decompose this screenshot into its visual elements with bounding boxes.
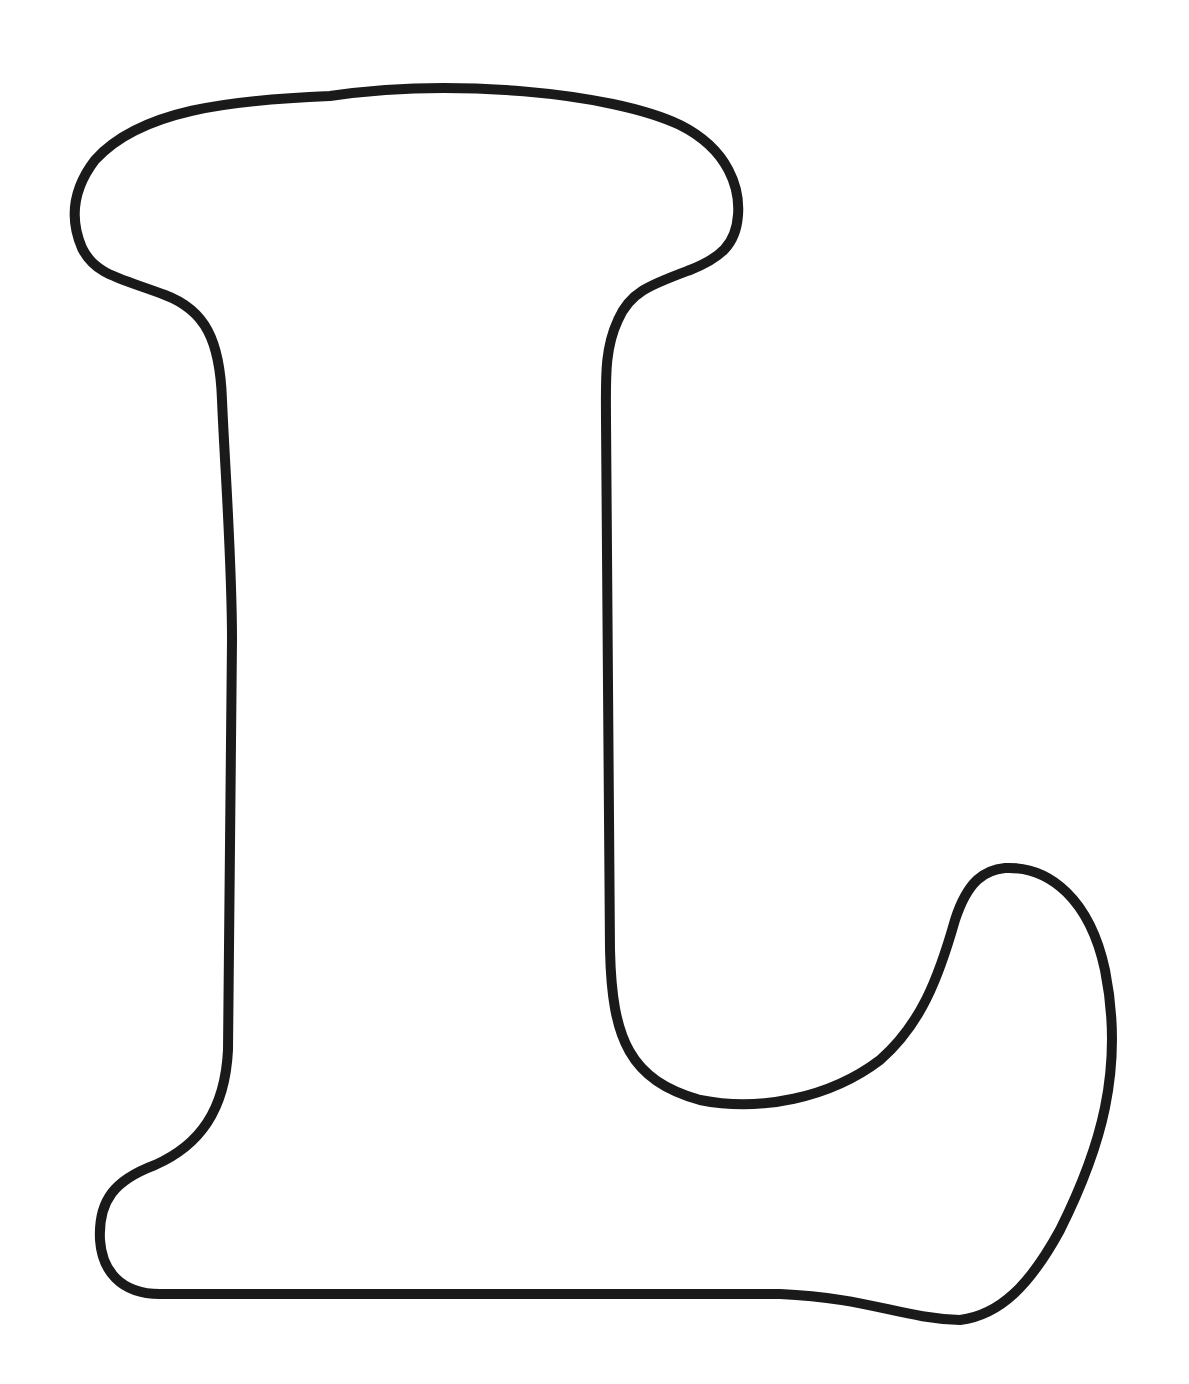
letter-l-outline-icon — [0, 0, 1189, 1384]
letter-l-outline — [75, 88, 1112, 1320]
coloring-page: L — [0, 0, 1189, 1384]
